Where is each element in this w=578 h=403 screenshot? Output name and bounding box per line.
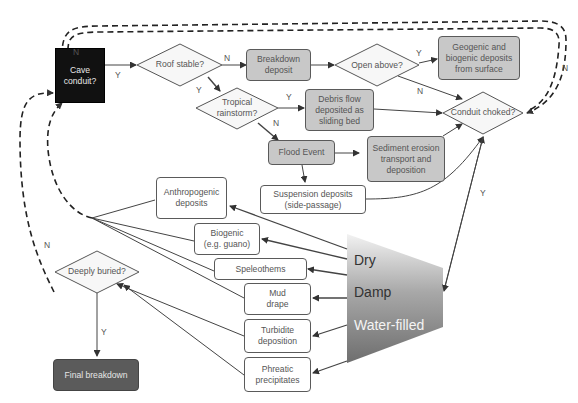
zone-damp-label: Damp: [354, 284, 391, 300]
flood-event-node: Flood Event: [268, 140, 335, 165]
edge-label-start-y: Y: [115, 70, 121, 80]
edge-label-rainstorm-y: Y: [286, 92, 292, 102]
geogenic-biogenic-node: Geogenic and biogenic deposits from surf…: [438, 36, 520, 80]
debris-flow-node: Debris flow deposited as sliding bed: [305, 89, 374, 131]
final-breakdown-node: Final breakdown: [53, 359, 139, 391]
deeply-buried-label: Deeply buried?: [60, 266, 134, 277]
edge-label-start-n: N: [73, 47, 79, 57]
tropical-rainstorm-label: Tropical rainstorm?: [205, 97, 269, 119]
zone-dry-label: Dry: [354, 252, 376, 268]
edge-label-buried-y: Y: [101, 327, 107, 337]
speleothems-node: Speleothems: [214, 258, 307, 280]
mud-drape-node: Mud drape: [244, 283, 311, 315]
edge-label-choked-n: N: [562, 63, 568, 73]
suspension-deposits-node: Suspension deposits (side-passage): [260, 185, 366, 214]
cave-conduit-start-node: Cave conduit?: [55, 48, 105, 103]
edge-label-rainstorm-n: N: [273, 118, 279, 128]
breakdown-deposit-node: Breakdown deposit: [246, 49, 311, 81]
edge-label-buried-n: N: [44, 240, 50, 250]
edge-label-open-y: Y: [416, 48, 422, 58]
edge-label-roof-n: N: [224, 53, 230, 63]
open-above-label: Open above?: [340, 60, 414, 71]
turbidite-deposition-node: Turbidite deposition: [244, 319, 311, 353]
zone-water-filled-label: Water-filled: [354, 317, 424, 333]
biogenic-node: Biogenic (e.g. guano): [194, 223, 260, 255]
edge-label-roof-y: Y: [196, 85, 202, 95]
sediment-erosion-node: Sediment erosion transport and depositio…: [367, 136, 445, 182]
phreatic-precipitates-node: Phreatic precipitates: [244, 357, 311, 392]
roof-stable-label: Roof stable?: [147, 59, 213, 70]
conduit-choked-label: Conduit choked?: [443, 107, 523, 118]
edge-label-open-n: N: [417, 86, 423, 96]
anthropogenic-deposits-node: Anthropogenic deposits: [156, 177, 227, 219]
cave-sediment-flowchart: Cave conduit? Roof stable? Tropical rain…: [0, 0, 578, 403]
edge-label-choked-y: Y: [480, 188, 486, 198]
